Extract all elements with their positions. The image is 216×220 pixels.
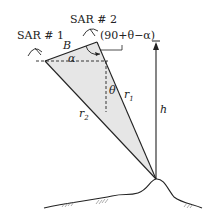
angle-expression-label: (90+θ−α) [100,30,155,41]
height-label: h [160,104,167,115]
ground-hatch [62,199,193,208]
sar2-label: SAR # 2 [70,14,117,25]
r2-sub: 2 [84,114,88,122]
shaded-triangle [45,42,156,179]
r1-label: r1 [124,89,134,103]
r1-sub: 1 [129,95,133,103]
sar2-antenna-stem [90,29,95,36]
alpha-label: α [68,53,75,64]
sar1-label: SAR # 1 [17,30,64,41]
angle-leader [100,45,122,50]
theta-label: θ [109,85,116,96]
baseline-label: B [63,40,71,51]
r2-label: r2 [79,108,89,122]
sar1-antenna-icon [28,49,42,56]
height-arrow-icon [153,42,159,50]
